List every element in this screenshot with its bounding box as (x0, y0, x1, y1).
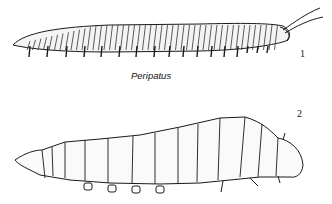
leg (47, 46, 48, 57)
leg (183, 46, 184, 57)
leg (224, 46, 225, 57)
leg (237, 46, 238, 57)
figure-number-2: 2 (297, 108, 302, 119)
peripatus-caption: Peripatus (131, 70, 171, 81)
leg (84, 46, 85, 57)
leg (101, 46, 102, 57)
leg (154, 46, 155, 57)
thoracic-leg (250, 178, 258, 186)
leg (247, 46, 248, 53)
leg (29, 46, 30, 57)
leg (119, 46, 120, 57)
leg (136, 46, 137, 57)
proleg (156, 186, 164, 193)
peripatus-drawing (13, 8, 323, 57)
caterpillar-drawing (15, 117, 303, 193)
proleg (108, 185, 116, 192)
leg (211, 46, 212, 57)
leg (257, 46, 258, 53)
leg (197, 46, 198, 57)
leg (169, 46, 170, 57)
figure-number-1: 1 (300, 48, 305, 59)
caterpillar-horn (283, 133, 285, 140)
proleg (132, 186, 140, 193)
leg (267, 46, 268, 53)
leg (66, 46, 67, 57)
thoracic-leg (221, 181, 223, 192)
proleg (84, 183, 92, 190)
figure-canvas (0, 0, 332, 204)
